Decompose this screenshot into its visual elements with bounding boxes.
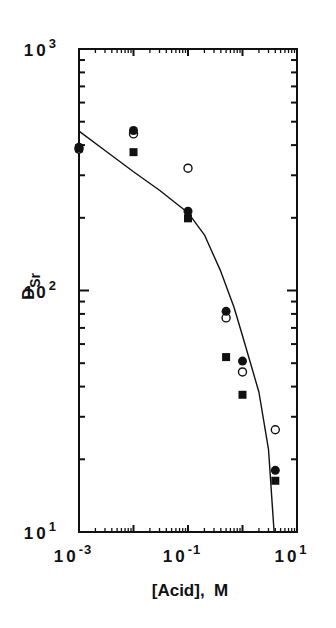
x-axis-label: [Acid], M	[152, 581, 229, 600]
open-circle-marker	[271, 426, 279, 434]
open-circle-marker	[239, 368, 247, 376]
plot-frame	[79, 49, 297, 532]
x-tick-label: 10-1	[163, 542, 201, 566]
filled-circle-marker	[238, 357, 247, 366]
filled-circle-marker	[75, 143, 84, 152]
axis-labels: 10310210110-310-1101[Acid], MDSr	[19, 36, 308, 600]
filled-square-marker	[130, 148, 138, 156]
filled-square-marker	[239, 391, 247, 399]
filled-circle-marker	[129, 126, 138, 135]
x-tick-label: 101	[274, 542, 307, 566]
filled-square-marker	[271, 477, 279, 485]
plot-border	[79, 49, 297, 532]
y-tick-label: 101	[24, 519, 57, 543]
filled-square-marker	[222, 353, 230, 361]
data-points	[75, 126, 280, 485]
filled-circle-marker	[271, 466, 280, 475]
chart-canvas: 10310210110-310-1101[Acid], MDSr	[0, 0, 336, 628]
filled-circle-marker	[184, 207, 193, 216]
open-circle-marker	[184, 164, 192, 172]
curve-line	[79, 131, 274, 532]
axis-ticks	[79, 49, 297, 532]
filled-circle-marker	[222, 307, 231, 316]
y-tick-label: 103	[24, 36, 57, 60]
x-tick-label: 10-3	[54, 542, 92, 566]
fitted-curve	[79, 131, 274, 532]
